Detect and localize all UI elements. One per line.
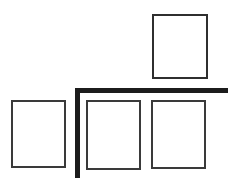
diagram-canvas (0, 0, 236, 188)
rectangle-bottom-left[interactable] (11, 100, 66, 168)
vertical-bar (75, 88, 80, 178)
rectangle-bottom-right[interactable] (151, 100, 206, 169)
rectangle-bottom-middle[interactable] (86, 100, 141, 170)
rectangle-top[interactable] (152, 14, 208, 79)
horizontal-bar (75, 88, 228, 93)
